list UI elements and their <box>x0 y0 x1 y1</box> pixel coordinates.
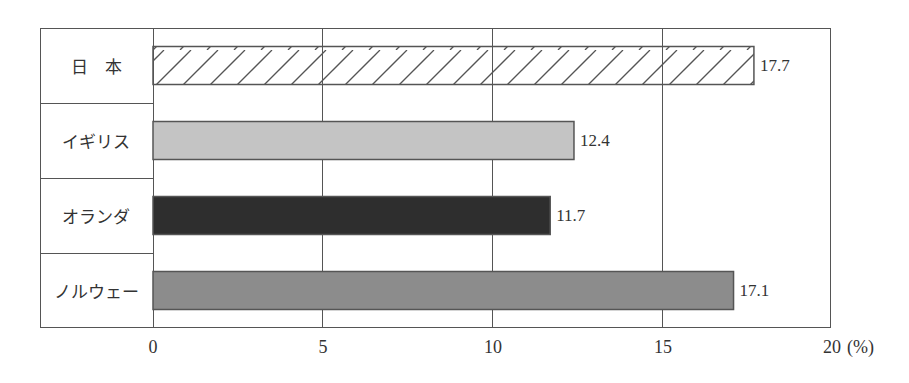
x-tick-0: 0 <box>149 337 158 358</box>
x-tick-5: 5 <box>319 337 328 358</box>
x-tick-10: 10 <box>484 337 502 358</box>
x-tick-15: 15 <box>654 337 672 358</box>
bar-netherlands <box>153 197 550 235</box>
x-tick-20: 20 <box>823 337 841 358</box>
value-label-norway: 17.1 <box>740 281 770 301</box>
bar-japan <box>153 47 754 85</box>
bar-chart: 日 本 イギリス オランダ ノルウェー 17.712.411.717.1 0 5… <box>0 0 909 383</box>
x-axis-unit: (%) <box>847 337 874 358</box>
bar-uk <box>153 122 574 160</box>
bar-norway <box>153 272 734 310</box>
value-label-uk: 12.4 <box>580 131 610 151</box>
value-label-netherlands: 11.7 <box>556 206 585 226</box>
value-label-japan: 17.7 <box>760 56 790 76</box>
